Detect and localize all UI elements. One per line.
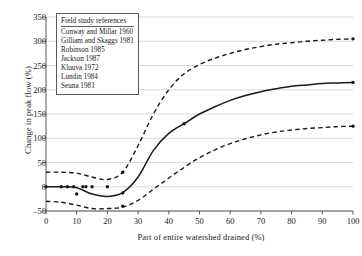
data-point-marker	[90, 185, 93, 188]
data-point-marker	[106, 185, 109, 188]
data-point-marker	[75, 192, 78, 195]
plot-area	[0, 0, 362, 256]
data-point-marker	[121, 191, 124, 194]
data-point-marker	[66, 185, 69, 188]
data-point-marker	[44, 185, 47, 188]
data-point-marker	[81, 185, 84, 188]
legend-item: Jackson 1987	[61, 55, 134, 64]
legend-title: Field study references	[61, 16, 134, 27]
data-point-marker	[60, 185, 63, 188]
data-point-marker	[182, 122, 185, 125]
data-point-marker	[84, 185, 87, 188]
data-point-marker	[121, 204, 124, 207]
legend-item: Lundin 1984	[61, 73, 134, 82]
data-point-marker	[351, 124, 354, 127]
legend-item-list: Conway and Millar 1960Gilliam and Skaggs…	[61, 28, 134, 90]
chart-figure: Change in peak flow (%) Part of entire w…	[0, 0, 362, 256]
legend-item: Seuna 1981	[61, 82, 134, 91]
data-point-marker	[121, 171, 124, 174]
legend-item: Gilliam and Skaggs 1981	[61, 37, 134, 46]
legend-item: Kluuva 1972	[61, 64, 134, 73]
series-line-central-trend	[46, 82, 353, 196]
data-point-marker	[72, 185, 75, 188]
data-point-marker	[351, 81, 354, 84]
data-point-marker	[351, 37, 354, 40]
legend-item: Conway and Millar 1960	[61, 28, 134, 37]
legend-item: Robinson 1985	[61, 46, 134, 55]
legend-box: Field study references Conway and Millar…	[56, 13, 139, 95]
